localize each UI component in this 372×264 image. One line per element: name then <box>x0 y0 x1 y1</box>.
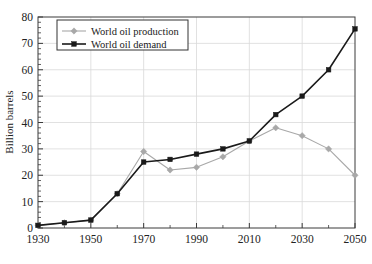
data-point-marker-square <box>89 218 94 223</box>
x-tick-label: 2030 <box>291 233 314 245</box>
data-point-marker-square <box>194 152 199 157</box>
data-point-marker-square <box>62 220 67 225</box>
y-tick-label: 50 <box>22 90 34 102</box>
y-axis-title: Billion barrels <box>3 90 15 153</box>
y-tick-label: 20 <box>22 169 34 181</box>
data-point-marker-square <box>326 67 331 72</box>
data-point-marker-square <box>72 42 77 47</box>
chart-legend: World oil productionWorld oil demand <box>57 20 188 50</box>
data-point-marker-square <box>115 191 120 196</box>
y-tick-label: 80 <box>22 11 34 23</box>
x-tick-label: 1950 <box>79 233 102 245</box>
y-tick-label: 10 <box>22 196 34 208</box>
data-point-marker-diamond <box>299 133 305 139</box>
y-tick-label: 30 <box>22 143 34 155</box>
line-chart: 01020304050607080 1930195019701990201020… <box>0 0 372 264</box>
y-tick-label: 40 <box>22 117 34 129</box>
data-point-marker-diamond <box>193 164 199 170</box>
y-axis-tick-labels: 01020304050607080 <box>22 11 34 234</box>
x-tick-label: 1930 <box>27 233 50 245</box>
x-axis-tick-labels: 1930195019701990201020302050 <box>27 233 367 245</box>
x-tick-label: 2050 <box>344 233 367 245</box>
data-point-marker-square <box>273 112 278 117</box>
data-point-marker-diamond <box>273 125 279 131</box>
data-point-marker-square <box>353 27 358 32</box>
x-tick-label: 1990 <box>185 233 208 245</box>
x-axis-major-ticks <box>38 223 355 228</box>
x-tick-label: 2010 <box>238 233 261 245</box>
data-point-marker-square <box>141 160 146 165</box>
y-tick-label: 70 <box>22 37 34 49</box>
legend-label: World oil demand <box>91 39 167 50</box>
data-point-marker-square <box>221 147 226 152</box>
data-point-marker-square <box>36 223 41 228</box>
data-point-marker-square <box>168 157 173 162</box>
data-point-marker-square <box>300 94 305 99</box>
y-tick-label: 60 <box>22 64 34 76</box>
x-tick-label: 1970 <box>132 233 155 245</box>
data-point-marker-diamond <box>220 154 226 160</box>
chart-figure: 01020304050607080 1930195019701990201020… <box>0 0 372 264</box>
legend-label: World oil production <box>91 26 180 37</box>
data-point-marker-square <box>247 139 252 144</box>
